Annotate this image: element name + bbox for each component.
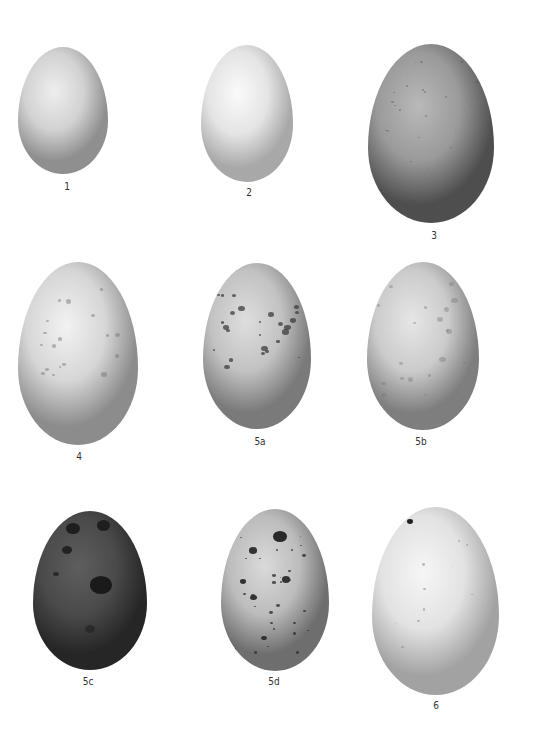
egg-marking — [458, 173, 459, 174]
egg-marking — [296, 651, 300, 654]
egg-marking — [261, 636, 267, 641]
egg-marking — [267, 646, 269, 647]
egg-marking — [40, 344, 43, 347]
egg-marking — [288, 579, 291, 581]
egg-marking — [391, 101, 393, 103]
egg-marking — [58, 299, 61, 302]
egg-marking — [234, 648, 236, 650]
egg-marking — [58, 337, 62, 340]
egg-marking — [470, 105, 471, 106]
egg-marking — [101, 372, 107, 377]
egg-marking — [268, 312, 273, 316]
egg-marking — [399, 109, 401, 111]
egg-marking — [419, 168, 420, 169]
egg-marking — [424, 306, 427, 308]
egg-label-4: 4 — [76, 451, 82, 462]
egg-marking — [43, 332, 46, 335]
egg-marking — [272, 581, 275, 584]
egg-marking — [410, 161, 412, 162]
egg-marking — [423, 588, 426, 590]
egg-marking — [273, 628, 276, 630]
egg-marking — [449, 282, 454, 286]
egg-marking — [288, 570, 290, 572]
egg-marking — [52, 344, 56, 347]
egg-marking — [224, 365, 230, 370]
egg-marking — [272, 574, 276, 577]
egg-marking — [85, 625, 95, 633]
egg-marking — [41, 372, 44, 375]
egg-marking — [405, 161, 406, 162]
egg-marking — [406, 74, 407, 75]
egg-label-5a: 5a — [254, 436, 265, 447]
egg-marking — [420, 61, 422, 63]
egg-marking — [91, 314, 95, 317]
egg-marking — [243, 593, 246, 595]
egg-marking — [418, 137, 420, 138]
egg-marking — [298, 357, 300, 359]
egg-marking — [295, 311, 299, 314]
egg-marking — [269, 611, 273, 614]
egg-marking — [66, 299, 72, 303]
egg-marking — [437, 317, 443, 322]
egg-2 — [201, 45, 293, 182]
egg-marking — [423, 608, 426, 610]
egg-marking — [290, 318, 297, 323]
egg-marking — [387, 130, 389, 132]
egg-marking — [270, 622, 273, 624]
egg-label-2: 2 — [246, 187, 252, 198]
egg-label-5d: 5d — [268, 676, 279, 687]
egg-marking — [445, 96, 447, 98]
egg-marking — [232, 294, 236, 297]
egg-marking — [417, 620, 420, 622]
egg-marking — [230, 311, 235, 315]
egg-label-5b: 5b — [415, 436, 426, 447]
egg-marking — [273, 531, 287, 542]
egg-5a — [203, 263, 311, 429]
egg-marking — [439, 357, 446, 362]
egg-marking — [115, 333, 121, 337]
egg-marking — [438, 194, 439, 195]
egg-marking — [455, 132, 456, 133]
egg-marking — [282, 329, 289, 334]
egg-marking — [106, 334, 109, 337]
egg-marking — [381, 382, 385, 386]
egg-marking — [475, 185, 477, 186]
egg-marking — [221, 294, 224, 297]
egg-marking — [415, 62, 416, 63]
egg-marking — [424, 394, 427, 396]
egg-marking — [223, 325, 229, 330]
egg-marking — [291, 549, 294, 551]
egg-marking — [450, 147, 451, 148]
egg-marking — [59, 366, 62, 368]
egg-marking — [294, 305, 299, 309]
egg-marking — [66, 523, 80, 534]
egg-marking — [403, 156, 404, 157]
egg-marking — [259, 334, 261, 336]
egg-label-5c: 5c — [83, 676, 94, 687]
egg-marking — [52, 374, 55, 376]
egg-5c — [33, 511, 147, 670]
egg-marking — [300, 545, 301, 546]
egg-marking — [100, 288, 103, 291]
egg-marking — [380, 189, 382, 191]
egg-marking — [254, 606, 256, 607]
egg-marking — [394, 105, 396, 106]
egg-marking — [399, 362, 403, 365]
egg-marking — [238, 306, 244, 311]
egg-marking — [276, 340, 279, 343]
egg-label-6: 6 — [433, 700, 439, 711]
egg-marking — [383, 67, 385, 69]
egg-marking — [221, 321, 224, 324]
egg-label-3: 3 — [431, 230, 437, 241]
egg-marking — [97, 520, 110, 530]
egg-marking — [474, 145, 475, 146]
egg-marking — [452, 566, 453, 567]
egg-marking — [280, 577, 281, 578]
egg-marking — [90, 576, 112, 594]
egg-marking — [53, 572, 59, 577]
egg-marking — [456, 391, 459, 393]
egg-marking — [393, 92, 395, 94]
egg-label-1: 1 — [64, 181, 70, 192]
egg-marking — [303, 610, 306, 612]
egg-marking — [464, 110, 465, 111]
